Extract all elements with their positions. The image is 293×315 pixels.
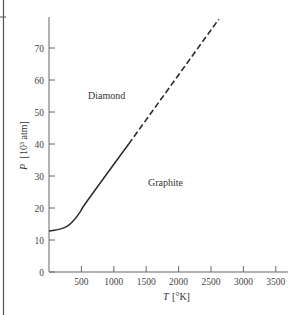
x-tick-label: 1500 — [137, 277, 156, 287]
axes: 010203040506070 500100015002000250030003… — [35, 17, 289, 287]
x-tick-label: 3000 — [234, 277, 253, 287]
y-tick-label: 0 — [39, 268, 44, 278]
y-tick-label: 10 — [35, 236, 45, 246]
measured-boundary-line — [49, 144, 129, 231]
y-tick-label: 50 — [35, 108, 45, 118]
y-tick-label: 60 — [35, 76, 45, 86]
x-tick-label: 1000 — [104, 277, 123, 287]
x-tick-label: 500 — [74, 277, 89, 287]
y-axis-unit: [10³ atm] — [18, 121, 29, 158]
y-tick-label: 40 — [35, 140, 45, 150]
y-tick-label: 70 — [35, 44, 45, 54]
extrapolated-boundary-line — [129, 19, 219, 144]
x-axis-label: T [°K] — [163, 291, 190, 302]
x-axis-symbol: T — [163, 291, 170, 302]
phase-boundary-curve — [49, 19, 219, 231]
y-axis-label: P [10³ atm] — [18, 121, 29, 171]
phase-diagram-chart: 010203040506070 500100015002000250030003… — [0, 0, 293, 315]
x-tick-label: 2000 — [169, 277, 188, 287]
x-axis-unit: [°K] — [172, 291, 190, 302]
y-axis-symbol: P — [18, 164, 29, 171]
y-ticks: 010203040506070 — [35, 44, 56, 278]
y-tick-label: 30 — [35, 172, 45, 182]
y-tick-label: 20 — [35, 204, 45, 214]
diamond-region-label: Diamond — [88, 90, 125, 101]
x-tick-label: 2500 — [202, 277, 221, 287]
x-ticks: 500100015002000250030003500 — [74, 266, 285, 287]
x-tick-label: 3500 — [266, 277, 285, 287]
graphite-region-label: Graphite — [148, 177, 184, 188]
